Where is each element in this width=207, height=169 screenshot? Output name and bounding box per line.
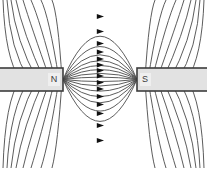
field-direction-arrow bbox=[97, 73, 104, 78]
field-line-outer bbox=[11, 80, 37, 169]
field-direction-arrow bbox=[97, 80, 104, 85]
field-direction-arrow bbox=[97, 68, 104, 73]
field-direction-arrow bbox=[97, 123, 104, 128]
field-line-outer bbox=[178, 80, 200, 169]
field-direction-arrow bbox=[97, 62, 104, 67]
magnet-north-label: N bbox=[51, 74, 58, 84]
inner-field-lines bbox=[63, 36, 137, 122]
field-line-outer bbox=[3, 80, 20, 169]
field-direction-arrow bbox=[97, 94, 104, 99]
magnet-north: N bbox=[0, 68, 63, 91]
magnet-south: S bbox=[137, 68, 207, 91]
field-direction-arrow bbox=[97, 49, 104, 54]
field-direction-arrow bbox=[97, 29, 104, 34]
magnetic-field-figure: N S bbox=[0, 0, 207, 168]
field-line-outer bbox=[187, 80, 204, 169]
field-direction-arrow bbox=[97, 14, 104, 19]
field-direction-arrow bbox=[97, 41, 104, 46]
field-direction-arrows bbox=[97, 14, 104, 143]
field-diagram-canvas: N S bbox=[0, 0, 207, 168]
field-direction-arrow bbox=[97, 138, 104, 143]
field-line-outer bbox=[7, 80, 29, 169]
magnet-south-label: S bbox=[142, 74, 148, 84]
field-line-outer bbox=[170, 80, 196, 169]
